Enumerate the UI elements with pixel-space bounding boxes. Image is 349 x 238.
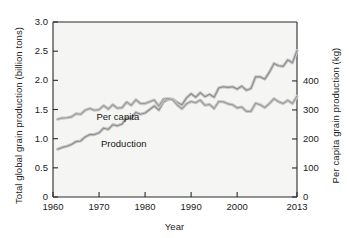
y-axis-right-tick-label: 100 [303, 162, 329, 173]
x-axis-tick-label: 1980 [125, 201, 165, 212]
y-axis-left-tick-label: 2.0 [22, 74, 48, 85]
y-axis-left-tick-label: 3.0 [22, 16, 48, 27]
y-axis-right-tick-label: 400 [303, 75, 329, 86]
series-annotation-per-capita: Per capita [96, 111, 139, 122]
series-annotation-production: Production [101, 138, 146, 149]
y-axis-left-tick-label: 2.5 [22, 45, 48, 56]
x-axis-tick-label: 1970 [79, 201, 119, 212]
y-axis-right-tick-label: 200 [303, 133, 329, 144]
x-axis-tick-label: 2000 [217, 201, 257, 212]
y-axis-left-tick-label: 1.5 [22, 104, 48, 115]
y-axis-left-tick-label: 1.0 [22, 133, 48, 144]
chart-figure: Total global grain production (billion t… [0, 0, 349, 238]
x-axis-title: Year [0, 221, 349, 232]
x-axis-tick-label: 1990 [171, 201, 211, 212]
y-axis-right-title: Per capita grain production (kg) [330, 21, 341, 211]
y-axis-left-tick-label: 0.5 [22, 162, 48, 173]
x-axis-tick-label: 2013 [277, 201, 317, 212]
y-axis-right-tick-label: 300 [303, 104, 329, 115]
x-axis-tick-label: 1960 [33, 201, 73, 212]
